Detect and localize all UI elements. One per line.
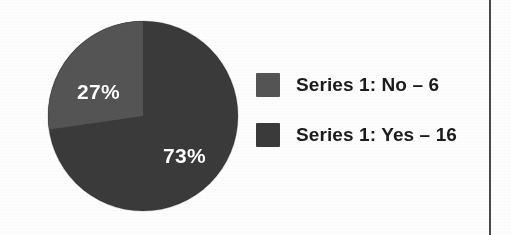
pie-chart-svg	[47, 20, 239, 212]
legend-item-no[interactable]: Series 1: No – 6	[256, 60, 481, 110]
legend-item-yes[interactable]: Series 1: Yes – 16	[256, 110, 481, 160]
pie-data-label-yes: 73%	[163, 144, 206, 168]
chart-page: 27% 73% Series 1: No – 6 Series 1: Yes –…	[0, 0, 511, 235]
legend-label-no: Series 1: No – 6	[296, 74, 439, 96]
pie-chart: 27% 73%	[47, 20, 239, 212]
pie-slice-no[interactable]	[48, 21, 143, 130]
chart-legend: Series 1: No – 6 Series 1: Yes – 16	[256, 60, 481, 160]
legend-label-yes: Series 1: Yes – 16	[296, 124, 457, 146]
legend-swatch-yes-icon	[256, 123, 280, 147]
legend-swatch-no-icon	[256, 73, 280, 97]
pie-data-label-no: 27%	[77, 80, 120, 104]
page-border-rule	[489, 0, 491, 235]
